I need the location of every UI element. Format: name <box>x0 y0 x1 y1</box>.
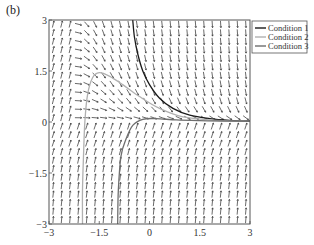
field-arrow-icon <box>75 41 82 43</box>
field-arrow-icon <box>53 165 55 172</box>
field-arrow-icon <box>178 208 180 215</box>
field-arrow-icon <box>178 182 180 189</box>
field-arrow-icon <box>245 216 247 223</box>
field-arrow-icon <box>203 89 205 96</box>
field-arrow-icon <box>52 157 54 164</box>
field-arrow-icon <box>220 29 222 36</box>
field-arrow-icon <box>101 99 107 103</box>
field-arrow-icon <box>237 80 239 87</box>
field-arrow-icon <box>53 174 55 181</box>
field-arrow-icon <box>211 148 213 155</box>
field-arrow-icon <box>203 199 205 206</box>
field-arrow-icon <box>153 46 155 53</box>
field-arrow-icon <box>95 191 97 198</box>
field-arrow-icon <box>161 132 163 138</box>
field-arrow-icon <box>92 99 98 102</box>
x-tick-label: 1.5 <box>194 227 207 238</box>
field-arrow-icon <box>86 165 88 172</box>
field-arrow-icon <box>187 29 189 36</box>
field-arrow-icon <box>187 72 189 79</box>
field-arrow-icon <box>153 123 155 129</box>
field-arrow-icon <box>135 98 139 103</box>
field-arrow-icon <box>170 80 172 87</box>
field-arrow-icon <box>61 114 63 121</box>
field-arrow-icon <box>69 55 71 62</box>
field-arrow-icon <box>128 148 130 155</box>
field-arrow-icon <box>162 21 164 28</box>
field-arrow-icon <box>86 191 88 198</box>
field-arrow-icon <box>136 63 138 70</box>
field-arrow-icon <box>220 148 222 155</box>
field-arrow-icon <box>144 140 146 146</box>
field-arrow-icon <box>203 148 205 155</box>
field-arrow-icon <box>95 174 97 181</box>
field-arrow-icon <box>178 89 180 95</box>
field-arrow-icon <box>69 72 71 79</box>
field-arrow-icon <box>211 106 214 112</box>
field-arrow-icon <box>237 55 239 62</box>
field-arrow-icon <box>86 182 88 189</box>
field-arrow-icon <box>102 30 105 36</box>
field-arrow-icon <box>111 191 113 198</box>
field-arrow-icon <box>229 72 231 79</box>
field-arrow-icon <box>187 182 189 189</box>
field-arrow-icon <box>103 157 105 164</box>
field-arrow-icon <box>92 82 97 86</box>
field-arrow-icon <box>94 132 96 138</box>
field-arrow-icon <box>237 191 239 198</box>
field-arrow-icon <box>178 199 180 206</box>
field-arrow-icon <box>212 89 214 96</box>
field-arrow-icon <box>245 132 247 138</box>
field-arrow-icon <box>69 114 71 121</box>
field-arrow-icon <box>61 29 63 36</box>
field-arrow-icon <box>86 140 88 146</box>
field-arrow-icon <box>212 182 214 189</box>
field-arrow-icon <box>212 199 214 206</box>
y-tick-label: 3 <box>42 15 47 26</box>
field-arrow-icon <box>153 174 155 181</box>
field-arrow-icon <box>161 140 163 146</box>
field-arrow-icon <box>111 216 113 223</box>
field-arrow-icon <box>134 117 141 119</box>
field-arrow-icon <box>61 191 63 198</box>
field-arrow-icon <box>128 64 130 70</box>
field-arrow-icon <box>203 46 205 53</box>
y-tick-label: 1.5 <box>35 66 48 77</box>
field-arrow-icon <box>52 80 54 87</box>
field-arrow-icon <box>195 208 197 215</box>
field-arrow-icon <box>236 106 239 112</box>
field-arrow-icon <box>161 89 164 95</box>
field-arrow-icon <box>61 165 63 172</box>
field-arrow-icon <box>128 46 130 53</box>
field-arrow-icon <box>118 98 123 103</box>
field-arrow-icon <box>78 216 80 223</box>
field-arrow-icon <box>128 157 130 164</box>
field-arrow-icon <box>203 174 205 181</box>
field-arrow-icon <box>229 191 231 198</box>
field-arrow-icon <box>212 165 214 172</box>
field-arrow-icon <box>128 208 130 215</box>
field-arrow-icon <box>170 148 172 155</box>
field-arrow-icon <box>52 89 54 96</box>
field-arrow-icon <box>228 216 230 223</box>
field-arrow-icon <box>178 80 180 87</box>
field-arrow-icon <box>60 140 62 146</box>
field-arrow-icon <box>78 157 80 164</box>
field-arrow-icon <box>75 23 82 25</box>
field-arrow-icon <box>118 89 122 95</box>
field-arrow-icon <box>69 29 71 36</box>
field-arrow-icon <box>136 182 138 189</box>
field-arrow-icon <box>119 72 122 78</box>
field-arrow-icon <box>95 182 97 189</box>
field-arrow-icon <box>203 63 205 70</box>
field-arrow-icon <box>126 107 132 111</box>
field-arrow-icon <box>153 21 155 28</box>
field-arrow-icon <box>77 148 79 155</box>
x-tick-label: −1.5 <box>90 227 108 238</box>
field-arrow-icon <box>220 208 222 215</box>
field-arrow-icon <box>61 55 63 62</box>
field-arrow-icon <box>144 123 146 129</box>
field-arrow-icon <box>69 140 71 146</box>
field-arrow-icon <box>229 182 231 189</box>
field-arrow-icon <box>178 132 180 138</box>
